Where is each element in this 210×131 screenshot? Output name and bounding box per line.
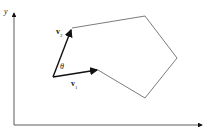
- v2-label: v2: [56, 28, 63, 38]
- polygon-outline: [72, 16, 177, 98]
- y-axis-label: y: [4, 8, 8, 16]
- axes: [14, 13, 202, 125]
- vector-v1-arrow: [53, 70, 97, 77]
- theta-label: θ: [60, 63, 64, 71]
- diagram-canvas: [0, 0, 210, 131]
- v1-label: v1: [71, 80, 78, 90]
